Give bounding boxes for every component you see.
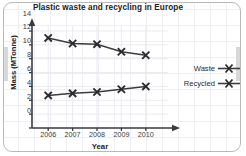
legend-entry-recycled: Recycled xyxy=(168,77,240,89)
legend-label-recycled: Recycled xyxy=(184,79,215,88)
legend-entry-waste: Waste xyxy=(178,62,240,74)
y-axis-arrow xyxy=(29,18,35,26)
legend-marker-recycled xyxy=(218,78,240,89)
x-axis-arrow xyxy=(172,125,180,131)
legend-marker-waste xyxy=(218,63,240,74)
legend-label-waste: Waste xyxy=(194,64,215,73)
line-chart: Plastic waste and recycling in Europe Ma… xyxy=(0,0,246,156)
